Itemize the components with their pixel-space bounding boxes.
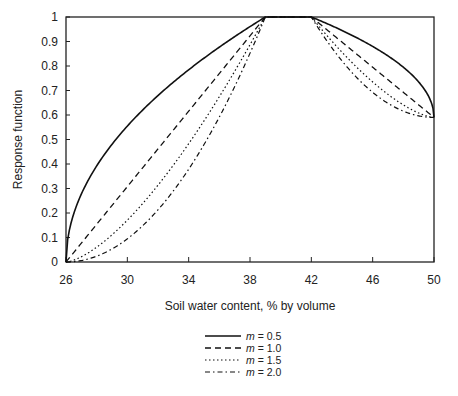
x-tick-label: 30: [121, 273, 135, 287]
y-tick-label: 0.4: [41, 157, 58, 171]
y-tick-label: 0.7: [41, 84, 58, 98]
y-tick-label: 0.8: [41, 59, 58, 73]
y-tick-label: 1: [51, 10, 58, 24]
chart: 2630343842465000.10.20.30.40.50.60.70.80…: [0, 0, 458, 396]
y-tick-label: 0: [51, 255, 58, 269]
x-tick-label: 50: [427, 273, 441, 287]
legend: m = 0.5m = 1.0m = 1.5m = 2.0: [205, 330, 281, 378]
legend-item: m = 1.0: [205, 342, 281, 354]
legend-item: m = 0.5: [205, 330, 281, 342]
legend-item: m = 1.5: [205, 354, 281, 366]
series-line-m-2-0: [66, 17, 434, 262]
y-tick-label: 0.1: [41, 231, 58, 245]
y-axis-label: Response function: [11, 90, 25, 189]
legend-label: m = 0.5: [246, 330, 281, 342]
y-tick-label: 0.6: [41, 108, 58, 122]
legend-label: m = 1.0: [246, 342, 281, 354]
legend-label: m = 2.0: [246, 366, 281, 378]
x-tick-label: 46: [366, 273, 380, 287]
y-tick-label: 0.2: [41, 206, 58, 220]
x-tick-label: 38: [243, 273, 257, 287]
x-tick-label: 42: [305, 273, 319, 287]
x-tick-label: 26: [59, 273, 73, 287]
x-tick-label: 34: [182, 273, 196, 287]
x-axis-label: Soil water content, % by volume: [165, 299, 336, 313]
legend-label: m = 1.5: [246, 354, 281, 366]
legend-item: m = 2.0: [205, 366, 281, 378]
y-tick-label: 0.5: [41, 133, 58, 147]
y-tick-label: 0.9: [41, 35, 58, 49]
series-group: [66, 17, 434, 262]
y-tick-label: 0.3: [41, 182, 58, 196]
